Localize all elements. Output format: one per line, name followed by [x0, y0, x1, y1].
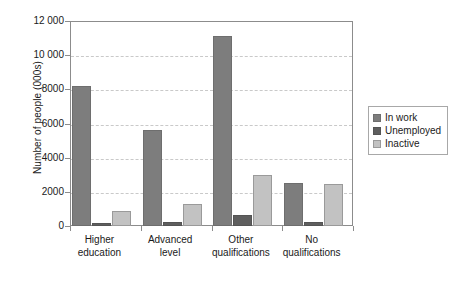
bar-inactive	[183, 204, 202, 226]
legend-item-in-work[interactable]: In work	[373, 111, 441, 124]
bar-inactive	[112, 211, 131, 226]
y-tick-label: 8000	[16, 84, 64, 94]
bar-in-work	[284, 183, 303, 226]
x-cat-label: Noqualifications	[262, 234, 362, 259]
x-tick-mark	[212, 226, 213, 231]
x-tick-mark	[353, 226, 354, 231]
x-cat-label-line: No	[262, 234, 362, 247]
bar-chart: Number of people (000s) 0200040006000800…	[0, 0, 455, 281]
y-tick-label: 10 000	[16, 50, 64, 60]
bar-unemployed	[304, 222, 323, 226]
bar-in-work	[72, 86, 91, 226]
y-tick-label: 0	[16, 221, 64, 231]
legend-swatch-unemployed-icon	[373, 127, 381, 135]
bar-in-work	[143, 130, 162, 226]
legend-label-in-work: In work	[385, 112, 417, 123]
x-tick-mark	[282, 226, 283, 231]
y-tick-label: 6000	[16, 119, 64, 129]
y-tick-label: 4000	[16, 153, 64, 163]
legend-item-inactive[interactable]: Inactive	[373, 137, 441, 150]
y-tick-label: 2000	[16, 187, 64, 197]
bar-unemployed	[233, 215, 252, 226]
y-tick-label: 12 000	[16, 16, 64, 26]
legend-item-unemployed[interactable]: Unemployed	[373, 124, 441, 137]
bar-unemployed	[92, 223, 111, 226]
bar-in-work	[213, 36, 232, 226]
bar-inactive	[324, 184, 343, 226]
legend-label-inactive: Inactive	[385, 138, 419, 149]
legend[interactable]: In work Unemployed Inactive	[368, 106, 448, 155]
x-tick-mark	[141, 226, 142, 231]
legend-swatch-inactive-icon	[373, 140, 381, 148]
x-tick-mark	[70, 226, 71, 231]
legend-swatch-in-work-icon	[373, 114, 381, 122]
bars-layer	[70, 21, 353, 226]
x-cat-label-line: qualifications	[262, 247, 362, 260]
bar-inactive	[253, 175, 272, 226]
legend-label-unemployed: Unemployed	[385, 125, 441, 136]
bar-unemployed	[163, 222, 182, 226]
